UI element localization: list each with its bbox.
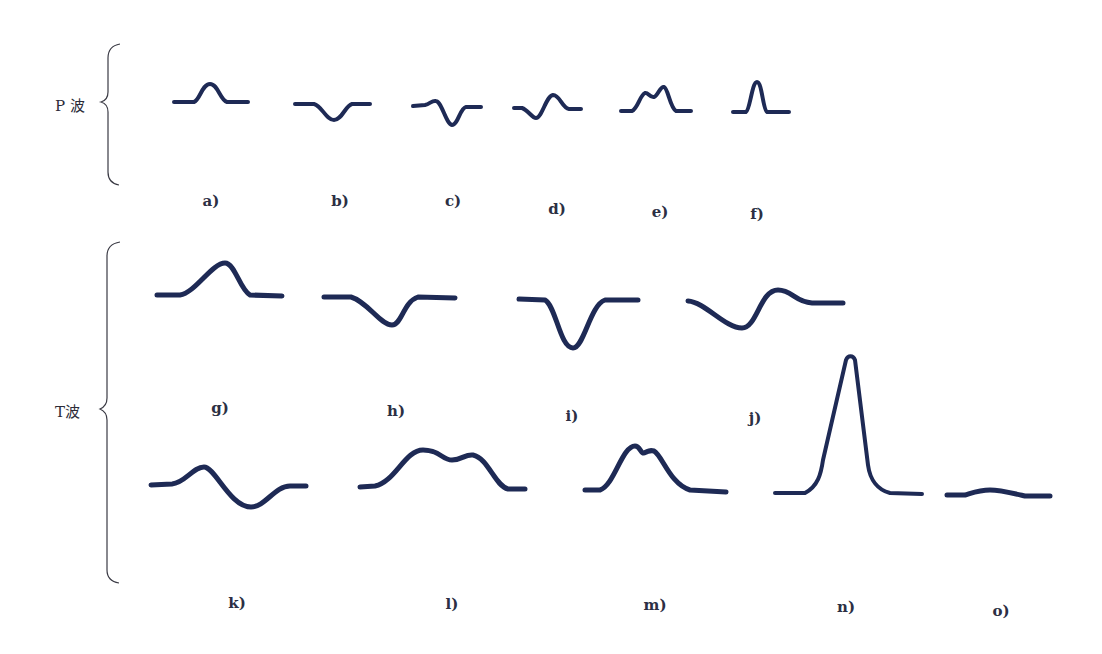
waveform-l (360, 450, 525, 489)
waveform-canvas (0, 0, 1102, 654)
panel-label-m: m) (644, 596, 667, 614)
panel-label-b: b) (331, 192, 349, 210)
panel-label-a: a) (203, 192, 220, 210)
waveform-e (621, 87, 691, 111)
panel-label-o: o) (992, 602, 1009, 620)
waveform-m (585, 446, 726, 492)
waveform-k (151, 467, 306, 507)
panel-label-d: d) (548, 200, 566, 218)
panel-label-k: k) (228, 594, 246, 612)
waveform-c (413, 101, 481, 125)
waveform-n (775, 356, 922, 494)
waveform-g (157, 263, 282, 296)
waveform-o (947, 490, 1050, 496)
panel-label-g: g) (211, 399, 229, 417)
panel-label-c: c) (445, 192, 461, 210)
waveform-j (688, 290, 843, 328)
waveform-d (514, 95, 581, 118)
panel-label-l: l) (446, 595, 459, 613)
waveform-b (295, 104, 370, 120)
waveform-f (733, 82, 789, 112)
waveform-a (174, 84, 248, 102)
panel-label-n: n) (837, 598, 855, 616)
waveform-h (324, 297, 455, 325)
panel-label-j: j) (749, 409, 762, 427)
panel-label-h: h) (387, 402, 405, 420)
panel-label-e: e) (652, 203, 669, 221)
waveform-i (519, 299, 638, 348)
panel-label-i: i) (566, 407, 579, 425)
panel-label-f: f) (750, 205, 764, 223)
